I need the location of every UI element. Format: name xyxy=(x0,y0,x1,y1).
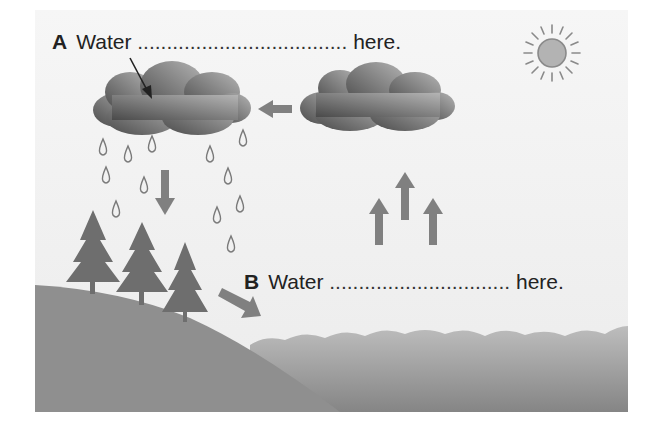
label-a: AWater .................................… xyxy=(52,30,401,54)
label-b-suffix: here. xyxy=(516,270,564,293)
label-b: BWater ............................... h… xyxy=(244,270,564,294)
water-cycle-diagram xyxy=(0,0,668,431)
label-a-blank[interactable]: .................................... xyxy=(137,30,347,53)
label-a-suffix: here. xyxy=(353,30,401,53)
label-b-letter: B xyxy=(244,270,259,293)
label-b-prefix: Water xyxy=(268,270,323,293)
label-b-blank[interactable]: ............................... xyxy=(329,270,510,293)
sun-icon xyxy=(524,25,580,81)
label-a-prefix: Water xyxy=(76,30,131,53)
label-a-letter: A xyxy=(52,30,67,53)
